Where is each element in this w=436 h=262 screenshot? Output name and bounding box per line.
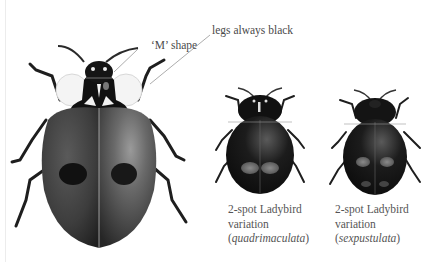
caption-variation: variation (228, 217, 309, 232)
caption-variation: variation (335, 217, 409, 232)
leader-line-m-shape (114, 49, 138, 72)
spot-icon (111, 163, 137, 185)
ladybird-sexpustulata (330, 90, 420, 195)
caption-latin-name: (quadrimaculata) (228, 231, 309, 246)
caption-sexpustulata: 2-spot Ladybird variation (sexpustulata) (335, 202, 409, 246)
annotation-m-shape: ‘M’ shape (151, 38, 197, 52)
caption-title: 2-spot Ladybird (335, 202, 409, 217)
caption-latin-name: (sexpustulata) (335, 231, 409, 246)
caption-quadrimaculata: 2-spot Ladybird variation (quadrimaculat… (228, 202, 309, 246)
ladybird-quadrimaculata (216, 88, 304, 194)
spot-icon (59, 163, 87, 185)
caption-title: 2-spot Ladybird (228, 202, 309, 217)
annotation-legs-always-black: legs always black (212, 23, 293, 37)
